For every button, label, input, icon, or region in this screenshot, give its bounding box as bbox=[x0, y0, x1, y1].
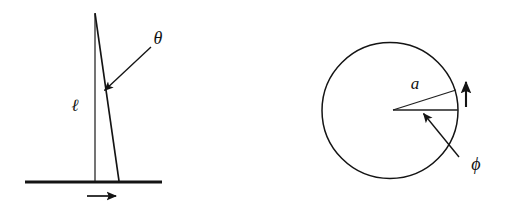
rotating-disk-diagram: a ϕ bbox=[322, 43, 481, 179]
disk-radius-label: a bbox=[411, 74, 420, 93]
pendulum-rod bbox=[95, 13, 119, 181]
pendulum-length-label: ℓ bbox=[71, 96, 78, 115]
slanted-radius-line bbox=[393, 90, 456, 110]
inverted-pendulum-diagram: ℓ θ bbox=[25, 13, 163, 196]
theta-pointer-arrow bbox=[105, 47, 152, 91]
physics-diagram-svg: ℓ θ a ϕ bbox=[0, 0, 506, 209]
pendulum-angle-label: θ bbox=[154, 28, 163, 48]
figure-canvas: ℓ θ a ϕ bbox=[0, 0, 506, 209]
disk-angle-label: ϕ bbox=[471, 154, 480, 174]
